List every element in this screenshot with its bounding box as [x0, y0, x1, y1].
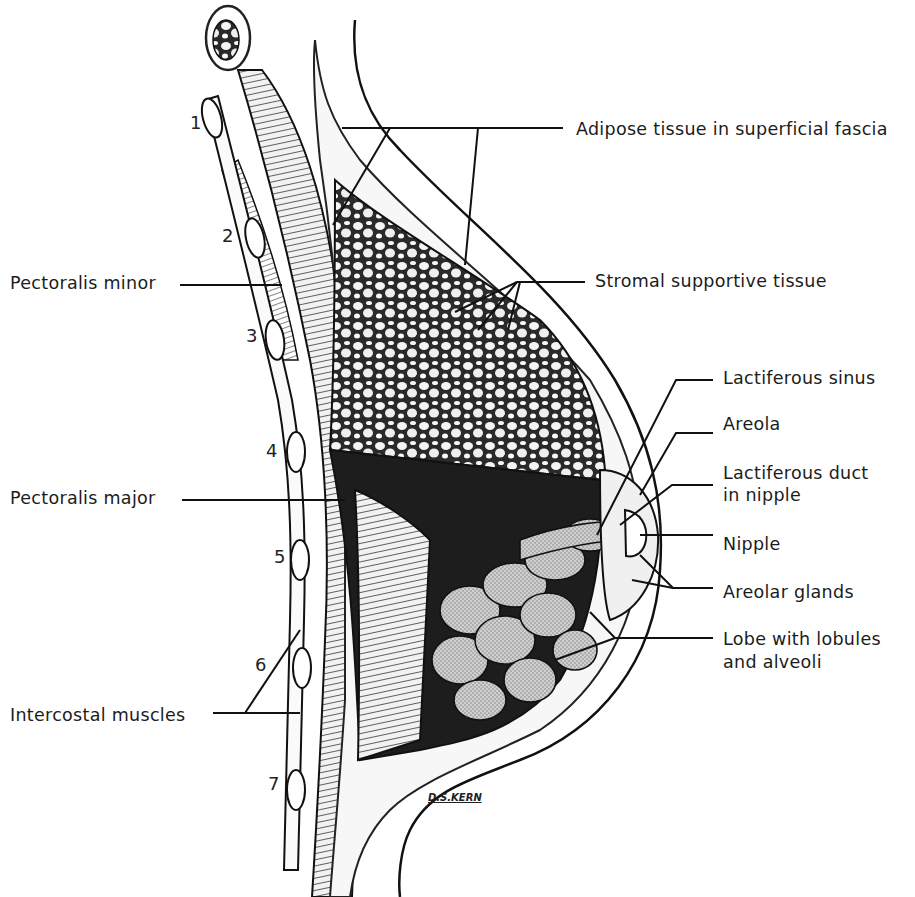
retromammary-space: [355, 490, 430, 760]
rib-number-5: 5: [274, 546, 285, 567]
clavicle: [206, 6, 250, 70]
label-adipose-tissue: Adipose tissue in superficial fascia: [576, 119, 888, 140]
artist-signature: D.S.KERN: [428, 792, 482, 803]
label-areola: Areola: [723, 414, 781, 435]
nipple-areola: [600, 470, 658, 620]
rib-number-6: 6: [255, 654, 266, 675]
rib-number-4: 4: [266, 440, 277, 461]
label-lactiferous-duct: Lactiferous duct: [723, 463, 869, 484]
label-intercostal-muscles: Intercostal muscles: [10, 705, 185, 726]
rib-number-2: 2: [222, 225, 233, 246]
rib-number-1: 1: [190, 112, 201, 133]
label-lactiferous-sinus: Lactiferous sinus: [723, 368, 875, 389]
label-lobe: Lobe with lobules: [723, 629, 881, 650]
label-stromal-tissue: Stromal supportive tissue: [595, 271, 827, 292]
breast-anatomy-figure: Adipose tissue in superficial fascia Str…: [0, 0, 915, 897]
label-lactiferous-duct-line2: in nipple: [723, 485, 801, 506]
label-pectoralis-minor: Pectoralis minor: [10, 273, 156, 294]
rib-number-3: 3: [246, 325, 257, 346]
label-lobe-line2: and alveoli: [723, 652, 822, 673]
label-pectoralis-major: Pectoralis major: [10, 488, 156, 509]
label-areolar-glands: Areolar glands: [723, 582, 854, 603]
rib-number-7: 7: [268, 773, 279, 794]
label-nipple: Nipple: [723, 534, 781, 555]
stromal-tissue: [330, 180, 605, 480]
